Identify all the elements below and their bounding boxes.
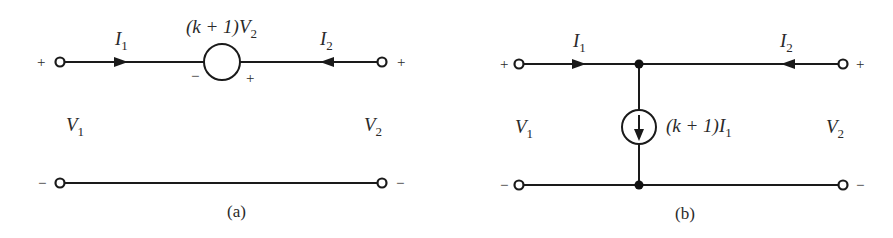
terminal-left-top <box>56 58 65 67</box>
terminal-right-bottom <box>378 179 387 188</box>
caption-a: (a) <box>227 202 246 221</box>
source-label: (k + 1)I1 <box>666 115 732 140</box>
port1-minus-sign: − <box>38 175 46 191</box>
source-label-sub: 1 <box>725 125 732 140</box>
v1-sub: 1 <box>78 124 85 139</box>
v1-sub: 1 <box>527 126 534 141</box>
voltage-label-v2: V2 <box>826 116 844 141</box>
i1-sub: 1 <box>121 38 128 53</box>
port1-plus-sign: + <box>500 56 508 72</box>
current-label-i2: I2 <box>319 28 333 53</box>
source-label-prefix: (k + 1) <box>666 115 719 137</box>
port1-plus-sign: + <box>37 54 45 70</box>
current-arrow-i2-icon <box>781 59 795 69</box>
terminal-left-bottom <box>56 179 65 188</box>
source-plus-sign: + <box>246 70 254 86</box>
source-label-sub: 2 <box>251 26 258 41</box>
voltage-label-v1: V1 <box>66 114 84 139</box>
current-arrow-i1-icon <box>114 57 128 67</box>
i1-sub: 1 <box>579 40 586 55</box>
voltage-label-v1: V1 <box>515 116 533 141</box>
port2-plus-sign: + <box>856 56 864 72</box>
source-label-prefix: (k + 1) <box>186 16 239 38</box>
terminal-right-top <box>839 60 848 69</box>
caption-b: (b) <box>675 204 695 223</box>
panel-a: + − + − − + (k + 1)V2 I1 I2 V1 V2 (a) <box>37 16 405 221</box>
port2-minus-sign: − <box>856 177 864 193</box>
v2-sub: 2 <box>838 126 845 141</box>
circuit-figure: + − + − − + (k + 1)V2 I1 I2 V1 V2 (a) <box>0 0 893 238</box>
i2-sub: 2 <box>326 38 333 53</box>
current-label-i1: I1 <box>572 30 586 55</box>
port1-minus-sign: − <box>500 177 508 193</box>
terminal-right-top <box>378 58 387 67</box>
source-label: (k + 1)V2 <box>186 16 257 41</box>
v2-sub: 2 <box>376 124 383 139</box>
terminal-left-top <box>515 60 524 69</box>
voltage-label-v2: V2 <box>364 114 382 139</box>
panel-b: + − + − (k + 1)I1 I1 I2 V1 V2 (b) <box>500 30 864 223</box>
current-label-i2: I2 <box>779 30 793 55</box>
terminal-right-bottom <box>839 181 848 190</box>
current-arrow-i2-icon <box>320 57 334 67</box>
i2-sub: 2 <box>786 40 793 55</box>
port2-minus-sign: − <box>396 175 404 191</box>
current-arrow-i1-icon <box>572 59 586 69</box>
source-minus-sign: − <box>191 68 199 84</box>
junction-dot-top <box>635 60 644 69</box>
current-label-i1: I1 <box>114 28 128 53</box>
terminal-left-bottom <box>515 181 524 190</box>
port2-plus-sign: + <box>397 54 405 70</box>
junction-dot-bottom <box>635 181 644 190</box>
dependent-voltage-source-icon <box>204 44 240 80</box>
